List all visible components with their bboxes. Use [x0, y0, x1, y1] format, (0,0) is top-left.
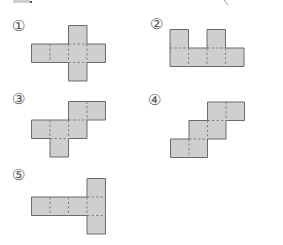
cropped-paren-fragment-right — [224, 0, 228, 5]
cube-net-1 — [32, 26, 106, 82]
nets-layer — [32, 26, 245, 235]
net-square — [208, 102, 227, 121]
net-square — [208, 121, 227, 140]
net-square — [50, 197, 69, 216]
net-square — [207, 30, 226, 49]
net-square — [171, 139, 190, 158]
net-square — [69, 63, 88, 82]
cube-nets-figure — [0, 0, 283, 245]
net-label-5: ⑤ — [12, 168, 25, 183]
net-square — [207, 48, 226, 67]
net-square — [50, 120, 69, 139]
cube-net-4 — [171, 102, 245, 158]
cropped-text-dot — [30, 1, 32, 3]
net-square — [87, 216, 106, 235]
cube-net-5 — [32, 179, 106, 235]
net-square — [50, 139, 69, 158]
net-square — [170, 30, 189, 49]
net-label-2: ② — [150, 17, 163, 32]
net-square — [226, 48, 245, 67]
net-square — [69, 26, 88, 45]
net-square — [32, 120, 51, 139]
net-square — [32, 44, 51, 63]
net-label-1: ① — [12, 19, 25, 34]
net-square — [69, 120, 88, 139]
cropped-text-fragment-left — [13, 0, 30, 3]
net-square — [69, 44, 88, 63]
cube-net-3 — [32, 102, 106, 158]
net-square — [87, 44, 106, 63]
cube-net-2 — [170, 30, 244, 67]
net-square — [189, 139, 208, 158]
net-square — [226, 102, 245, 121]
net-square — [69, 102, 88, 121]
net-square — [50, 44, 69, 63]
net-square — [87, 197, 106, 216]
net-square — [189, 48, 208, 67]
net-square — [69, 197, 88, 216]
net-square — [32, 197, 51, 216]
net-square — [170, 48, 189, 67]
net-label-4: ④ — [148, 93, 161, 108]
net-square — [87, 179, 106, 198]
net-square — [87, 102, 106, 121]
net-square — [189, 121, 208, 140]
net-label-3: ③ — [12, 92, 25, 107]
